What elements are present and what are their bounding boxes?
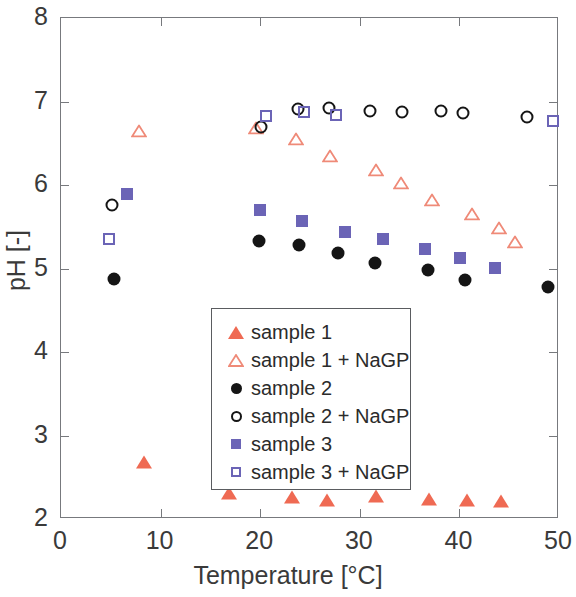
data-point — [521, 110, 534, 123]
data-point — [253, 234, 266, 247]
y-axis-tick — [61, 352, 69, 353]
data-point — [121, 188, 133, 200]
y-tick-label: 3 — [2, 422, 48, 447]
y-tick-label: 8 — [2, 4, 48, 29]
x-axis-tick — [459, 509, 460, 517]
legend-item-2[interactable]: sample 1 + NaGP — [212, 346, 410, 374]
legend-label: sample 3 — [251, 433, 332, 456]
data-point — [421, 492, 437, 505]
y-tick-label: 7 — [2, 88, 48, 113]
data-point — [435, 104, 448, 117]
data-point — [363, 104, 376, 117]
data-point — [288, 133, 304, 146]
y-tick-label: 2 — [2, 505, 48, 530]
data-point — [491, 222, 507, 235]
data-point — [457, 107, 470, 120]
legend-label: sample 2 — [251, 377, 332, 400]
data-point — [298, 106, 310, 118]
data-point — [464, 208, 480, 221]
y-axis-tick — [549, 102, 557, 103]
ph-vs-temperature-scatter-figure: pH [-] 2345678 01020304050 sample 1sampl… — [0, 0, 576, 597]
x-axis-tick — [161, 509, 162, 517]
data-point — [319, 493, 335, 506]
legend-item-3[interactable]: sample 2 — [212, 374, 410, 402]
legend-item-5[interactable]: sample 3 — [212, 430, 410, 458]
data-point — [542, 280, 555, 293]
legend-box: sample 1sample 1 + NaGPsample 2sample 2 … — [211, 308, 411, 490]
legend-item-4[interactable]: sample 2 + NaGP — [212, 402, 410, 430]
data-point — [393, 177, 409, 190]
data-point — [339, 226, 351, 238]
data-point — [255, 120, 268, 133]
data-point — [330, 109, 342, 121]
legend-marker-icon — [225, 326, 247, 339]
legend-label: sample 1 + NaGP — [251, 349, 409, 372]
data-point — [507, 235, 523, 248]
data-point — [322, 149, 338, 162]
data-point — [368, 256, 381, 269]
data-point — [377, 233, 389, 245]
legend-marker-icon — [225, 467, 247, 477]
x-tick-label: 30 — [329, 528, 389, 553]
legend-label: sample 1 — [251, 321, 332, 344]
data-point — [493, 495, 509, 508]
data-point — [136, 456, 152, 469]
x-axis-tick — [161, 18, 162, 26]
y-tick-label: 4 — [2, 338, 48, 363]
legend-marker-icon — [225, 411, 247, 422]
x-axis-tick — [260, 509, 261, 517]
y-axis-tick — [549, 269, 557, 270]
data-point — [419, 243, 431, 255]
x-axis-tick — [459, 18, 460, 26]
y-axis-tick — [61, 102, 69, 103]
data-point — [459, 493, 475, 506]
data-point — [489, 262, 501, 274]
legend-marker-icon — [225, 439, 247, 449]
data-point — [103, 233, 115, 245]
data-point — [296, 215, 308, 227]
data-point — [421, 264, 434, 277]
legend-item-1[interactable]: sample 1 — [212, 318, 410, 346]
data-point — [368, 164, 384, 177]
x-axis-tick — [360, 509, 361, 517]
x-tick-label: 10 — [130, 528, 190, 553]
x-axis-tick — [360, 18, 361, 26]
data-point — [131, 124, 147, 137]
data-point — [254, 204, 266, 216]
legend-label: sample 2 + NaGP — [251, 405, 409, 428]
data-point — [260, 110, 272, 122]
data-point — [547, 115, 559, 127]
data-point — [107, 272, 120, 285]
x-tick-label: 0 — [30, 528, 90, 553]
y-axis-tick — [549, 185, 557, 186]
data-point — [105, 199, 118, 212]
y-axis-tick — [61, 185, 69, 186]
y-axis-tick — [61, 436, 69, 437]
legend-marker-icon — [225, 354, 247, 367]
legend-label: sample 3 + NaGP — [251, 461, 409, 484]
y-axis-tick — [549, 352, 557, 353]
legend-marker-icon — [225, 383, 247, 394]
data-point — [293, 239, 306, 252]
x-tick-label: 20 — [229, 528, 289, 553]
y-tick-label: 6 — [2, 171, 48, 196]
y-axis-tick — [549, 436, 557, 437]
x-tick-label: 40 — [428, 528, 488, 553]
data-point — [284, 491, 300, 504]
data-point — [395, 105, 408, 118]
x-axis-title: Temperature [°C] — [0, 561, 576, 590]
data-point — [459, 274, 472, 287]
data-point — [331, 246, 344, 259]
x-tick-label: 50 — [528, 528, 576, 553]
data-point — [368, 489, 384, 502]
y-axis-tick — [61, 269, 69, 270]
x-axis-tick — [260, 18, 261, 26]
data-point — [424, 193, 440, 206]
data-point — [454, 252, 466, 264]
legend-item-6[interactable]: sample 3 + NaGP — [212, 458, 410, 486]
y-tick-label: 5 — [2, 255, 48, 280]
